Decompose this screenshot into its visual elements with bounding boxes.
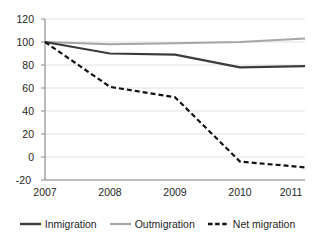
legend-swatch-inmigration bbox=[20, 220, 41, 228]
y-tick-label-0: 0 bbox=[8, 152, 34, 163]
x-tick-label-2007: 2007 bbox=[25, 187, 65, 198]
y-tick-label-120: 120 bbox=[8, 14, 34, 25]
legend-item-net-migration[interactable]: Net migration bbox=[208, 219, 295, 230]
x-tick-label-2010: 2010 bbox=[220, 187, 260, 198]
legend-swatch-outmigration bbox=[110, 220, 131, 228]
legend-swatch-net-migration bbox=[208, 220, 229, 228]
series-outmigration bbox=[45, 39, 305, 45]
legend-item-inmigration[interactable]: Inmigration bbox=[20, 219, 97, 230]
legend-label-outmigration: Outmigration bbox=[135, 219, 195, 230]
y-tick-label-60: 60 bbox=[8, 83, 34, 94]
x-tick-label-2008: 2008 bbox=[90, 187, 130, 198]
x-tick-label-2011: 2011 bbox=[271, 187, 311, 198]
legend-label-inmigration: Inmigration bbox=[45, 219, 97, 230]
x-tick-label-2009: 2009 bbox=[155, 187, 195, 198]
y-tick-label-100: 100 bbox=[8, 37, 34, 48]
line-chart: 120 100 80 60 40 20 0 -20 2007 2008 2009… bbox=[0, 0, 315, 236]
y-tick-label-40: 40 bbox=[8, 106, 34, 117]
legend-item-outmigration[interactable]: Outmigration bbox=[110, 219, 195, 230]
series-net-migration bbox=[45, 42, 305, 167]
chart-legend: Inmigration Outmigration Net migration bbox=[0, 214, 315, 234]
series-inmigration bbox=[45, 42, 305, 67]
legend-label-net-migration: Net migration bbox=[233, 219, 295, 230]
y-tick-label-neg20: -20 bbox=[5, 175, 31, 186]
chart-plot-area bbox=[0, 0, 315, 236]
y-tick-label-20: 20 bbox=[8, 129, 34, 140]
y-tick-label-80: 80 bbox=[8, 60, 34, 71]
